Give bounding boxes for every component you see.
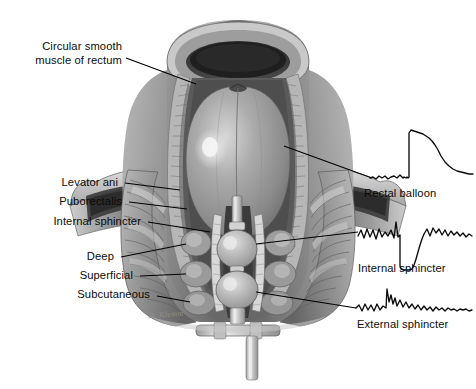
trace-external-sphincter	[356, 289, 472, 311]
label-circular-smooth-muscle-line1: Circular smooth	[4, 40, 122, 54]
label-internal-sphincter-trace: Internal sphincter	[358, 262, 446, 276]
label-circular-smooth-muscle: Circular smooth muscle of rectum	[4, 40, 122, 67]
label-puborectalis: Puborectalis	[0, 195, 122, 209]
label-circular-smooth-muscle-line2: muscle of rectum	[4, 54, 122, 68]
label-deep: Deep	[0, 250, 114, 264]
label-subcutaneous: Subcutaneous	[0, 288, 150, 302]
label-internal-sphincter-left: Internal sphincter	[0, 215, 141, 229]
label-superficial: Superficial	[0, 269, 133, 283]
label-external-sphincter-trace: External sphincter	[357, 318, 448, 332]
label-levator-ani: Levator ani	[0, 176, 118, 190]
label-rectal-balloon: Rectal balloon	[364, 187, 436, 201]
trace-rectal-balloon	[370, 130, 473, 179]
internal-sphincter-balloon	[217, 230, 257, 268]
external-sphincter-balloon	[216, 271, 258, 309]
